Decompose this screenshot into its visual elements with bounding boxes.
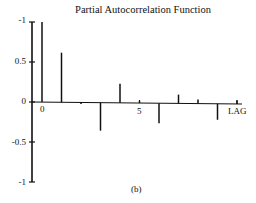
x-axis	[32, 102, 242, 104]
y-tick-label-0.5: 0.5	[4, 56, 26, 66]
y-tick-label-top: -1	[4, 15, 26, 25]
y-tick-label-neg0.5: -0.5	[4, 137, 26, 147]
y-tick-label-0: 0	[4, 96, 26, 106]
figure-caption: (b)	[131, 184, 142, 194]
pacf-plot	[0, 0, 256, 203]
y-tick-label-neg1: -1	[4, 177, 26, 187]
x-tick-label-0: 0	[40, 104, 45, 114]
x-tick-label-5: 5	[137, 106, 142, 116]
x-axis-label: LAG	[228, 106, 247, 116]
